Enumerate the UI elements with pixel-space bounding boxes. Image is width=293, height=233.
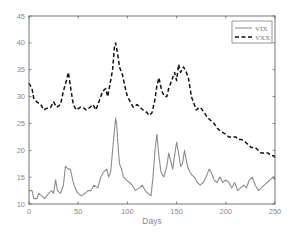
y-tick-label: 20 <box>17 146 25 155</box>
x-tick-label: 50 <box>74 207 82 216</box>
x-tick-label: 200 <box>220 207 233 216</box>
x-axis-tick-labels: 050100150200250 <box>27 207 281 216</box>
x-tick-label: 0 <box>27 207 31 216</box>
legend-vix-label: VIX <box>255 25 267 33</box>
series-layer <box>29 43 275 199</box>
y-tick-label: 10 <box>17 200 25 209</box>
y-tick-label: 15 <box>17 173 25 182</box>
y-axis-tick-labels: 1015202530354045 <box>17 12 25 209</box>
legend: VIX VXX <box>232 21 272 43</box>
y-tick-label: 35 <box>17 65 25 74</box>
x-axis-label: Days <box>142 216 161 226</box>
plot-frame <box>29 16 275 204</box>
y-tick-label: 30 <box>17 92 25 101</box>
x-tick-label: 250 <box>269 207 282 216</box>
series-vix-line <box>29 118 275 199</box>
x-tick-label: 100 <box>121 207 134 216</box>
axis-ticks <box>29 16 275 204</box>
y-tick-label: 45 <box>17 12 25 21</box>
series-vxx-line <box>29 43 275 158</box>
y-tick-label: 40 <box>17 38 25 47</box>
y-tick-label: 25 <box>17 119 25 128</box>
x-tick-label: 150 <box>170 207 183 216</box>
legend-vxx-label: VXX <box>255 34 270 42</box>
line-chart: 050100150200250 1015202530354045 Days VI… <box>0 0 293 233</box>
